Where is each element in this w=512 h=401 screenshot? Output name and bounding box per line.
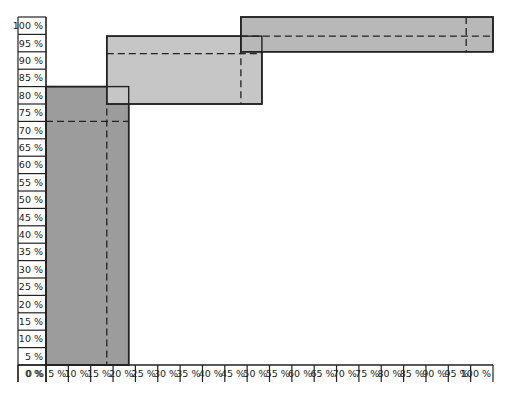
y-tick-label: 50 % (19, 194, 43, 205)
x-tick-label: 40 % (199, 368, 223, 379)
y-tick-label: 30 % (19, 264, 43, 275)
y-tick-label: 15 % (19, 316, 43, 327)
y-axis: 0 %5 %10 %15 %20 %25 %30 %35 %40 %45 %50… (13, 17, 46, 382)
x-tick-label: 0 % (26, 368, 44, 379)
y-tick-label: 5 % (25, 351, 43, 362)
x-tick-label: 90 % (422, 368, 446, 379)
box-3-rect (241, 17, 493, 52)
y-tick-label: 40 % (19, 229, 43, 240)
x-tick-label: 65 % (310, 368, 334, 379)
y-tick-label: 10 % (19, 333, 43, 344)
x-tick-label: 80 % (377, 368, 401, 379)
box-3 (241, 17, 493, 52)
chart: 0 %5 %10 %15 %20 %25 %30 %35 %40 %45 %50… (0, 0, 512, 401)
x-tick-label: 15 % (87, 368, 111, 379)
x-tick-label: 30 % (154, 368, 178, 379)
y-tick-label: 65 % (19, 142, 43, 153)
x-tick-label: 60 % (288, 368, 312, 379)
x-tick-label: 20 % (109, 368, 133, 379)
x-tick-label: 35 % (176, 368, 200, 379)
y-tick-label: 100 % (13, 20, 43, 31)
y-tick-label: 20 % (19, 299, 43, 310)
y-tick-label: 60 % (19, 159, 43, 170)
y-tick-label: 35 % (19, 246, 43, 257)
x-tick-label: 10 % (65, 368, 89, 379)
box-1 (46, 87, 129, 365)
box-1-rect (46, 87, 129, 365)
y-tick-label: 85 % (19, 72, 43, 83)
x-axis: 0 %5 %10 %15 %20 %25 %30 %35 %40 %45 %50… (18, 365, 493, 382)
x-tick-label: 25 % (132, 368, 156, 379)
y-tick-label: 95 % (19, 38, 43, 49)
y-tick-label: 75 % (19, 107, 43, 118)
y-tick-label: 80 % (19, 90, 43, 101)
x-tick-label: 85 % (400, 368, 424, 379)
y-tick-label: 45 % (19, 212, 43, 223)
y-tick-label: 25 % (19, 281, 43, 292)
y-tick-label: 55 % (19, 177, 43, 188)
x-tick-label: 50 % (243, 368, 267, 379)
boxes-group (46, 17, 493, 365)
y-tick-label: 90 % (19, 55, 43, 66)
y-tick-label: 70 % (19, 125, 43, 136)
x-tick-label: 70 % (333, 368, 357, 379)
x-tick-label: 75 % (355, 368, 379, 379)
x-tick-label: 100 % (461, 368, 491, 379)
box-2 (107, 36, 262, 104)
x-tick-label: 45 % (221, 368, 245, 379)
box-2-rect (107, 36, 262, 104)
x-tick-label: 55 % (266, 368, 290, 379)
